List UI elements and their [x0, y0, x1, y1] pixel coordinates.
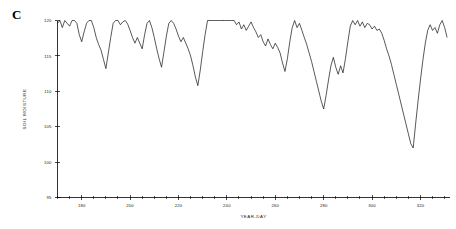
y-tick-label: 110: [44, 89, 52, 94]
y-axis-title: SOIL MOISTURE: [22, 89, 27, 130]
x-tick-label: 220: [175, 203, 183, 208]
x-tick-label: 260: [271, 203, 279, 208]
x-axis-title: YEAR-DAY: [240, 214, 266, 219]
y-tick-label: 100: [44, 160, 52, 165]
x-tick-label: 240: [223, 203, 231, 208]
y-tick-label: 105: [44, 124, 52, 129]
y-axis-tick-labels: 95100105110115120: [44, 18, 52, 200]
y-tick-label: 95: [46, 195, 52, 200]
x-tick-label: 180: [78, 203, 86, 208]
x-tick-label: 200: [126, 203, 134, 208]
figure-panel-c: C 95100105110115120 18020022024026028030…: [0, 0, 456, 229]
soil-moisture-line-chart: 95100105110115120 1802002202402602803003…: [0, 0, 456, 229]
x-axis-tick-labels: 180200220240260280300320: [78, 203, 425, 208]
x-tick-label: 320: [417, 203, 425, 208]
y-tick-label: 120: [44, 18, 52, 23]
data-series-soil-moisture: [58, 21, 448, 148]
y-tick-label: 115: [44, 54, 52, 59]
x-tick-label: 280: [320, 203, 328, 208]
x-tick-label: 300: [368, 203, 376, 208]
